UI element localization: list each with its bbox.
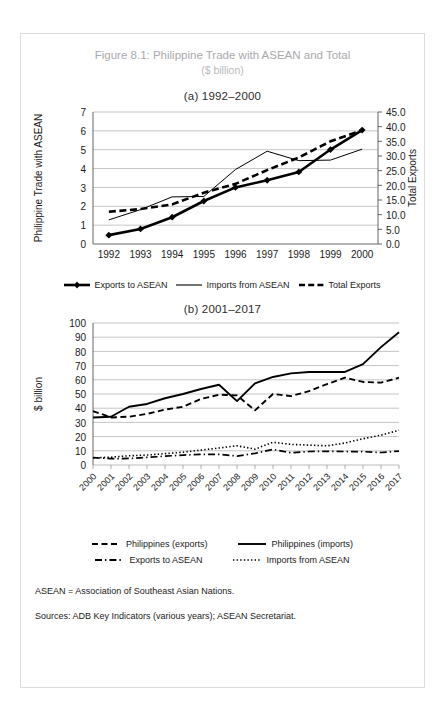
x-axis-tick-a: 1992 — [98, 249, 121, 260]
legend-marker-solid-thin — [176, 280, 202, 290]
y-axis-tick-b: 100 — [69, 318, 86, 329]
series-marker-diamond — [105, 232, 112, 239]
legend-item-exports-to-asean-b: Exports to ASEAN — [95, 552, 202, 568]
legend-marker-dashed — [92, 539, 120, 549]
legend-label-b3: Exports to ASEAN — [129, 552, 202, 568]
chart-a-svg: 012345670.05.010.015.020.025.030.035.040… — [21, 102, 424, 277]
y-axis-tick-b: 10 — [75, 446, 87, 457]
y-axis-tick-b: 50 — [75, 389, 87, 400]
y2-axis-tick-a: 15.0 — [386, 195, 406, 206]
figure-subtitle-text: ($ billion) — [21, 63, 424, 77]
y-axis-tick-b: 0 — [80, 460, 86, 471]
legend-marker-solid-thick-diamond — [64, 280, 90, 290]
x-axis-tick-b: 2006 — [185, 471, 206, 492]
y-axis-tick-a: 2 — [80, 201, 86, 212]
y-axis-label-a: Philippine Trade with ASEAN — [33, 114, 44, 242]
y-axis-tick-a: 0 — [80, 239, 86, 250]
legend-label-a3: Total Exports — [329, 280, 381, 290]
x-axis-tick-b: 2015 — [347, 471, 368, 492]
x-axis-tick-b: 2010 — [257, 471, 278, 492]
x-axis-tick-b: 2002 — [113, 471, 134, 492]
y2-axis-label-a: Total Exports — [407, 149, 418, 207]
x-axis-tick-b: 2011 — [276, 471, 297, 492]
x-axis-tick-b: 2009 — [239, 471, 260, 492]
legend-marker-dash-dot — [95, 555, 123, 565]
note-abbreviation: ASEAN = Association of Southeast Asian N… — [35, 584, 424, 598]
y-axis-tick-a: 5 — [80, 145, 86, 156]
x-axis-tick-b: 2008 — [221, 471, 242, 492]
y2-axis-tick-a: 20.0 — [386, 181, 406, 192]
y-axis-tick-a: 4 — [80, 164, 86, 175]
x-axis-tick-a: 2000 — [351, 249, 374, 260]
x-axis-tick-b: 2004 — [149, 471, 170, 492]
legend-item-philippines-imports: Philippines (imports) — [238, 536, 354, 552]
x-axis-tick-a: 1995 — [193, 249, 216, 260]
y-axis-tick-b: 40 — [75, 403, 87, 414]
y2-axis-tick-a: 10.0 — [386, 210, 406, 221]
series-marker-diamond — [264, 177, 271, 184]
y-axis-tick-a: 1 — [80, 220, 86, 231]
y-axis-tick-b: 90 — [75, 332, 87, 343]
legend-label-a1: Exports to ASEAN — [94, 280, 167, 290]
y-axis-tick-b: 70 — [75, 361, 87, 372]
x-axis-tick-b: 2017 — [383, 471, 404, 492]
legend-item-philippines-exports: Philippines (exports) — [92, 536, 208, 552]
series-line-philippines-imports- — [93, 332, 399, 417]
legend-panel-b: Philippines (exports) Philippines (impor… — [21, 536, 424, 568]
legend-marker-dotted — [233, 555, 261, 565]
legend-row-2: Exports to ASEAN Imports from ASEAN — [21, 552, 424, 568]
y-axis-tick-b: 20 — [75, 432, 87, 443]
y-axis-tick-b: 80 — [75, 347, 87, 358]
x-axis-tick-a: 1999 — [319, 249, 342, 260]
x-axis-tick-b: 2003 — [131, 471, 152, 492]
chart-panel-a: 012345670.05.010.015.020.025.030.035.040… — [21, 102, 424, 277]
legend-item-total-exports: Total Exports — [299, 280, 381, 290]
y-axis-tick-a: 3 — [80, 183, 86, 194]
legend-marker-dashed-thick — [299, 280, 325, 290]
figure-notes: ASEAN = Association of Southeast Asian N… — [35, 584, 424, 623]
figure-title-text: Figure 8.1: Philippine Trade with ASEAN … — [21, 48, 424, 63]
x-axis-tick-b: 2013 — [311, 471, 332, 492]
x-axis-tick-a: 1996 — [224, 249, 247, 260]
legend-panel-a: Exports to ASEAN Imports from ASEAN Tota… — [21, 280, 424, 290]
x-axis-tick-a: 1994 — [161, 249, 184, 260]
y2-axis-tick-a: 40.0 — [386, 122, 406, 133]
series-line-total-exports — [109, 130, 362, 212]
chart-panel-b: 0102030405060708090100200020012002200320… — [21, 315, 424, 530]
legend-label-a2: Imports from ASEAN — [206, 280, 289, 290]
y-axis-tick-a: 7 — [80, 107, 86, 118]
y-axis-label-b: $ billion — [33, 377, 44, 411]
legend-item-exports-to-asean: Exports to ASEAN — [64, 280, 167, 290]
series-marker-diamond — [137, 226, 144, 233]
panel-b-title: (b) 2001–2017 — [21, 303, 424, 315]
x-axis-tick-a: 1993 — [129, 249, 152, 260]
chart-b-svg: 0102030405060708090100200020012002200320… — [21, 315, 424, 530]
y2-axis-tick-a: 25.0 — [386, 166, 406, 177]
figure-page: Figure 8.1: Philippine Trade with ASEAN … — [20, 33, 425, 688]
series-line-philippines-exports- — [93, 378, 399, 418]
panel-a-title: (a) 1992–2000 — [21, 90, 424, 102]
legend-label-b4: Imports from ASEAN — [267, 552, 350, 568]
x-axis-tick-a: 1997 — [256, 249, 279, 260]
series-line-imports-from-asean — [93, 430, 399, 458]
x-axis-tick-b: 2001 — [95, 471, 116, 492]
legend-marker-solid — [238, 539, 266, 549]
y-axis-tick-a: 6 — [80, 126, 86, 137]
note-sources: Sources: ADB Key Indicators (various yea… — [35, 609, 424, 623]
x-axis-tick-b: 2014 — [329, 471, 350, 492]
x-axis-tick-b: 2000 — [77, 471, 98, 492]
y-axis-tick-b: 60 — [75, 375, 87, 386]
legend-label-b1: Philippines (exports) — [126, 536, 208, 552]
y2-axis-tick-a: 35.0 — [386, 137, 406, 148]
y2-axis-tick-a: 5.0 — [386, 225, 400, 236]
x-axis-tick-b: 2005 — [167, 471, 188, 492]
x-axis-tick-a: 1998 — [288, 249, 311, 260]
x-axis-tick-b: 2007 — [203, 471, 224, 492]
y2-axis-tick-a: 30.0 — [386, 151, 406, 162]
y-axis-tick-b: 30 — [75, 418, 87, 429]
x-axis-tick-b: 2012 — [293, 471, 314, 492]
legend-item-imports-from-asean-b: Imports from ASEAN — [233, 552, 350, 568]
legend-item-imports-from-asean: Imports from ASEAN — [176, 280, 289, 290]
legend-label-b2: Philippines (imports) — [272, 536, 354, 552]
x-axis-tick-b: 2016 — [365, 471, 386, 492]
